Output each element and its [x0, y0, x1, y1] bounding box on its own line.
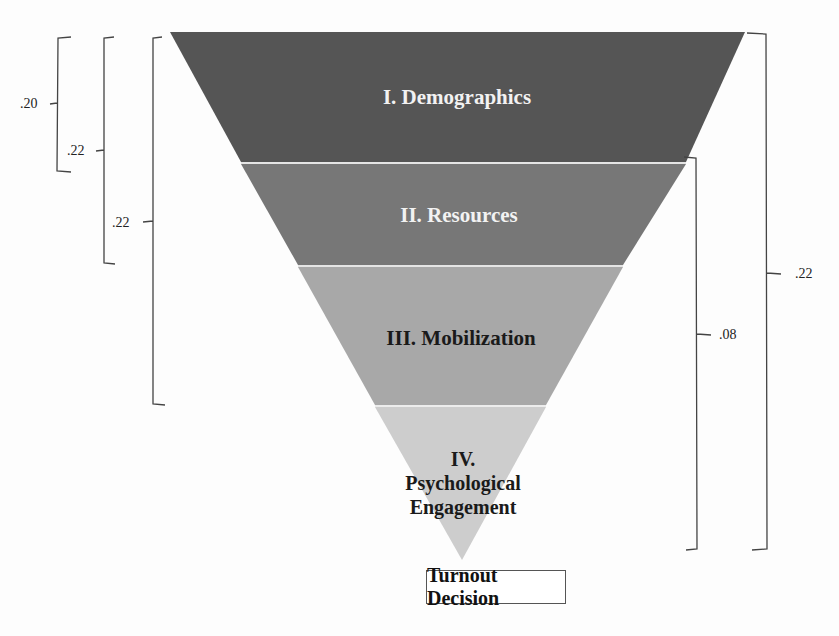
- band-label-iv-line2: Psychological: [405, 472, 521, 495]
- right-coef-inner: .08: [719, 327, 737, 342]
- turnout-decision-label: Turnout Decision: [427, 564, 565, 610]
- band-label-resources: II. Resources: [400, 203, 517, 227]
- funnel-diagram: I. Demographics II. Resources III. Mobil…: [0, 0, 839, 636]
- right-bracket-all: [747, 33, 781, 550]
- right-coef-outer: .22: [795, 266, 813, 281]
- left-bracket-demographics-mobilization: [143, 37, 165, 405]
- band-label-mobilization: III. Mobilization: [386, 326, 536, 350]
- band-label-iv-numeral: IV.: [451, 448, 476, 470]
- left-coef-3: .22: [112, 215, 130, 230]
- left-coef-1: .20: [20, 96, 38, 111]
- left-coef-2: .22: [67, 143, 85, 158]
- band-label-demographics: I. Demographics: [383, 85, 531, 109]
- right-bracket-resources-engagement: [684, 157, 711, 550]
- band-label-iv-line3: Engagement: [410, 496, 517, 519]
- turnout-decision-box: Turnout Decision: [426, 570, 566, 604]
